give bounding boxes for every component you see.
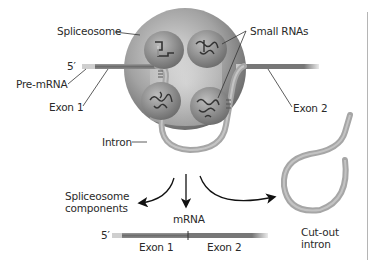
exon-1-bar	[95, 64, 157, 69]
label-pre-mrna: Pre-mRNA	[16, 78, 67, 90]
label-exon-2-top: Exon 2	[293, 102, 327, 114]
mrna-exon-2-bar	[188, 233, 268, 238]
label-five-prime-top: 5′	[67, 60, 76, 72]
label-mrna: mRNA	[173, 213, 205, 225]
spliceosome-diagram: Spliceosome Small RNAs 5′ Pre-mRNA Exon …	[0, 0, 370, 263]
small-rna-3	[141, 82, 181, 120]
label-exon-2-bottom: Exon 2	[207, 241, 241, 253]
right-edge-divider	[367, 12, 368, 260]
label-intron: Intron	[102, 136, 132, 148]
label-five-prime-bottom: 5′	[101, 229, 110, 241]
label-small-rnas: Small RNAs	[250, 25, 308, 37]
small-rna-1	[144, 31, 184, 69]
mrna-strand	[112, 231, 268, 240]
label-spliceosome-components: Spliceosome components	[65, 190, 135, 214]
process-arrows	[140, 174, 274, 206]
exon-2-bar	[244, 64, 319, 69]
cut-out-intron-lariat	[284, 115, 350, 211]
label-cut-out-intron: Cut-out intron	[301, 226, 361, 250]
label-spliceosome: Spliceosome	[57, 25, 121, 37]
label-exon-1-top: Exon 1	[49, 101, 83, 113]
label-exon-1-bottom: Exon 1	[139, 241, 173, 253]
small-rna-4	[190, 87, 230, 125]
small-rna-2	[187, 30, 227, 68]
five-prime-cap	[82, 64, 95, 69]
mrna-exon-1-bar	[122, 233, 188, 238]
arrow-to-cut-out-intron	[200, 176, 274, 201]
arrow-to-components	[140, 178, 174, 203]
